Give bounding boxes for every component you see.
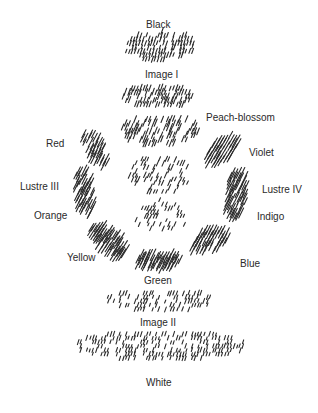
violet-band: [205, 131, 241, 168]
label-yellow: Yellow: [67, 253, 96, 263]
label-white: White: [146, 378, 172, 388]
lustre-iii-band: [74, 165, 97, 219]
label-red: Red: [46, 139, 64, 149]
label-lustre-iii: Lustre III: [20, 182, 59, 192]
black-band: [126, 28, 195, 62]
hatched-colour-diagram: [0, 0, 318, 413]
red-band: [81, 130, 110, 170]
white-rows: [77, 331, 243, 360]
face-center: [128, 156, 188, 194]
label-black: Black: [146, 20, 170, 30]
upper-figure: [121, 115, 199, 146]
label-indigo: Indigo: [257, 212, 284, 222]
label-image-ii: Image II: [140, 318, 176, 328]
label-violet: Violet: [249, 148, 274, 158]
chin-rings: [135, 198, 185, 231]
image-ii-rows: [107, 290, 210, 312]
label-green: Green: [144, 276, 172, 286]
label-blue: Blue: [240, 259, 260, 269]
blue-band: [190, 225, 230, 255]
label-orange: Orange: [34, 211, 67, 221]
label-peach-blossom: Peach-blossom: [206, 113, 275, 123]
green-band: [135, 249, 182, 274]
lustre-iv-band: [224, 167, 249, 221]
image-i-band: [122, 84, 193, 108]
label-lustre-iv: Lustre IV: [262, 185, 302, 195]
label-image-i: Image I: [145, 70, 178, 80]
